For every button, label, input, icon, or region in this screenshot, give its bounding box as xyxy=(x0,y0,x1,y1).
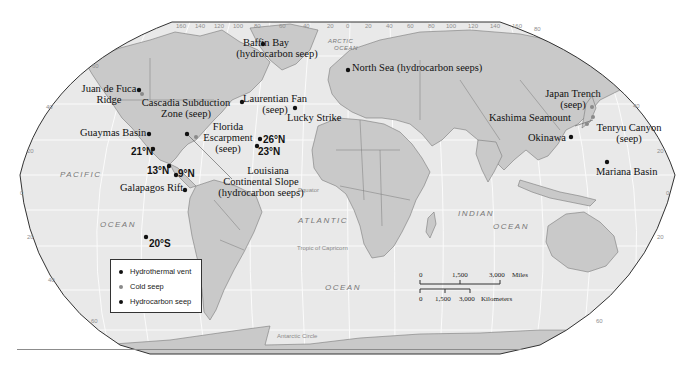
ocean-label-atlantic-ocean: OCEAN xyxy=(325,283,361,292)
lat-tick: 20 xyxy=(27,148,34,154)
site-label-9n: 9°N xyxy=(178,168,195,179)
lat-tick: 60 xyxy=(92,63,99,69)
lon-tick: 0 xyxy=(346,23,349,29)
lon-tick: 140 xyxy=(490,23,500,29)
site-label-okinawa: Okinawa xyxy=(528,132,566,143)
marker-louisiana xyxy=(185,132,189,136)
figure-rule-divider xyxy=(17,349,522,350)
marker-guaymas xyxy=(147,132,151,136)
legend-item-hydrothermal-vent: Hydrothermal vent xyxy=(119,267,191,276)
lon-tick: 120 xyxy=(214,23,224,29)
legend-item-hydrocarbon-seep: Hydrocarbon seep xyxy=(119,297,191,306)
lon-tick: 40 xyxy=(303,23,310,29)
lon-tick: 40 xyxy=(386,23,393,29)
site-label-26n: 26°N xyxy=(263,134,285,145)
lon-tick: 160 xyxy=(176,23,186,29)
scale-km-3000: 3,000 xyxy=(459,295,475,303)
hydrocarbon-seep-dot-icon xyxy=(119,300,123,304)
site-label-kashima-seamount: Kashima Seamount xyxy=(489,112,571,123)
ocean-label-indian-ocean: OCEAN xyxy=(493,222,529,231)
lon-tick: 60 xyxy=(279,23,286,29)
lon-tick: 140 xyxy=(195,23,205,29)
lon-tick: 60 xyxy=(407,23,414,29)
marker-kashima xyxy=(591,115,595,119)
lon-tick: 80 xyxy=(254,23,261,29)
site-label-mariana-basin: Mariana Basin xyxy=(596,166,658,177)
site-label-lucky-strike: Lucky Strike xyxy=(287,112,342,123)
lat-tick: 60 xyxy=(91,318,98,324)
scale-miles-1500: 1,500 xyxy=(452,271,468,279)
ocean-label-pacific-ocean: OCEAN xyxy=(100,220,136,229)
marker-okinawa xyxy=(569,135,573,139)
scale-bar-lines xyxy=(418,279,518,295)
marker-galapagos xyxy=(183,188,187,192)
marker-20s xyxy=(144,235,148,239)
lat-tick: 40 xyxy=(46,104,53,110)
site-label-japan-trench: Japan Trench (seep) xyxy=(538,88,608,110)
world-map xyxy=(0,0,683,386)
scale-miles-unit: Miles xyxy=(512,271,528,279)
lat-tick: 40 xyxy=(633,103,640,109)
lat-tick: 20 xyxy=(657,148,664,154)
site-label-galapagos-rift: Galapagos Rift xyxy=(120,182,183,193)
hydrothermal-vent-dot-icon xyxy=(119,270,123,274)
ocean-label-pacific: PACIFIC xyxy=(60,170,101,179)
cold-seep-dot-icon xyxy=(119,285,123,289)
ocean-label-indian: INDIAN xyxy=(458,209,494,218)
scale-miles-3000: 3,000 xyxy=(489,271,505,279)
lon-tick: 160 xyxy=(512,23,522,29)
site-label-guaymas-basin: Guaymas Basin xyxy=(80,127,146,138)
lon-tick: 20 xyxy=(327,23,334,29)
legend-item-cold-seep: Cold seep xyxy=(119,282,164,291)
antarctic-circle-label: Antarctic Circle xyxy=(277,333,317,339)
marker-26n xyxy=(258,137,262,141)
lon-tick: 80 xyxy=(428,23,435,29)
lon-tick: 100 xyxy=(233,23,243,29)
lat-tick: 20 xyxy=(27,234,34,240)
site-label-cascadia: Cascadia Subduction Zone (seep) xyxy=(130,97,242,119)
scale-km-0: 0 xyxy=(419,295,423,303)
site-label-baffin-bay: Baffin Bay (hydrocarbon seep) xyxy=(217,37,337,59)
tropic-capricorn-label: Tropic of Capricorn xyxy=(297,245,348,251)
site-label-florida-escarpment: Florida Escarpment (seep) xyxy=(199,121,257,154)
lat-tick: 40 xyxy=(48,277,55,283)
scale-km-1500: 1,500 xyxy=(435,295,451,303)
site-label-north-sea: North Sea (hydrocarbon seeps) xyxy=(352,62,482,73)
marker-north-sea xyxy=(346,68,350,72)
legend: Hydrothermal vent Cold seep Hydrocarbon … xyxy=(110,259,202,313)
site-label-tenryu-canyon: Tenryu Canyon (seep) xyxy=(584,122,674,144)
site-label-louisiana: Louisiana Continental Slope (hydrocarbon… xyxy=(196,165,326,198)
lat-tick: 0 xyxy=(666,190,669,196)
lon-tick: 100 xyxy=(446,23,456,29)
marker-mariana xyxy=(605,160,609,164)
scale-miles-0: 0 xyxy=(419,271,423,279)
lat-tick: 20 xyxy=(657,234,664,240)
site-label-13n: 13°N xyxy=(147,165,169,176)
scale-km-unit: Kilometers xyxy=(481,295,512,303)
lon-tick: 20 xyxy=(365,23,372,29)
ocean-label-atlantic: ATLANTIC xyxy=(298,216,348,225)
marker-florida xyxy=(194,135,198,139)
ocean-label-arctic-ocean: OCEAN xyxy=(334,45,358,51)
lat-tick: 60 xyxy=(596,318,603,324)
lon-tick: 120 xyxy=(468,23,478,29)
site-label-21n: 21°N xyxy=(131,146,153,157)
site-label-20s: 20°S xyxy=(149,238,171,249)
lat-tick: 80 xyxy=(534,26,541,32)
site-label-23n: 23°N xyxy=(258,146,280,157)
lat-tick: 0 xyxy=(20,190,23,196)
